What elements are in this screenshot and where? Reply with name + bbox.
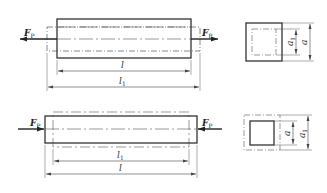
dimension-label-a1: a1 <box>297 129 308 138</box>
dimension-label-a1: a1 <box>285 37 296 46</box>
dimension-label-l: l <box>121 60 124 70</box>
deformed-outline <box>53 112 189 147</box>
dimension-label-a: a <box>299 40 309 45</box>
force-label-right: FP <box>201 118 212 129</box>
bar-body <box>45 116 197 143</box>
force-label-right: FP <box>201 28 212 39</box>
section-inner <box>250 121 274 145</box>
top-cross-section: a1 a <box>246 23 314 61</box>
dimension-label-a: a <box>282 131 292 136</box>
dimension-label-l1: l1 <box>119 76 126 87</box>
top-view: FP FP l l1 <box>20 19 218 91</box>
bottom-view: FP FP l1 l <box>18 112 222 178</box>
dimension-label-l: l <box>119 163 122 173</box>
bottom-cross-section: a a1 <box>244 115 312 150</box>
force-label-left: FP <box>23 28 34 39</box>
section-inner-dashed <box>252 29 276 55</box>
force-label-left: FP <box>29 118 40 129</box>
drawing-canvas: FP FP l l1 a1 a FP FP l <box>0 0 327 193</box>
dimension-label-l1: l1 <box>117 150 124 161</box>
bar-body <box>57 19 191 58</box>
